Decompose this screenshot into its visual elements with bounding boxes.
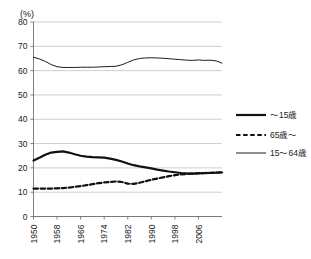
x-tick-label: 1982 [123, 224, 133, 243]
legend-label: 15〜64歳 [270, 148, 307, 158]
y-tick-label: 10 [18, 187, 28, 197]
chart-background [0, 0, 311, 259]
x-tick-label: 1966 [76, 224, 86, 243]
x-tick-label: 1974 [99, 224, 109, 243]
x-tick-label: 1998 [170, 224, 180, 243]
chart-container: (%) 01020304050607080 195019581966197419… [0, 0, 311, 259]
line-chart: (%) 01020304050607080 195019581966197419… [0, 0, 311, 259]
x-tick-label: 2006 [194, 224, 204, 243]
y-tick-label: 40 [18, 114, 28, 124]
y-tick-label: 30 [18, 139, 28, 149]
y-tick-label: 50 [18, 90, 28, 100]
legend-label: 〜15歳 [270, 110, 297, 120]
y-tick-label: 0 [23, 212, 28, 222]
x-tick-label: 1990 [147, 224, 157, 243]
y-tick-label: 20 [18, 163, 28, 173]
y-tick-label: 60 [18, 66, 28, 76]
x-tick-label: 1958 [52, 224, 62, 243]
y-tick-label: 80 [18, 17, 28, 27]
y-tick-label: 70 [18, 41, 28, 51]
legend-label: 65歳〜 [270, 130, 297, 140]
x-tick-label: 1950 [29, 224, 39, 243]
